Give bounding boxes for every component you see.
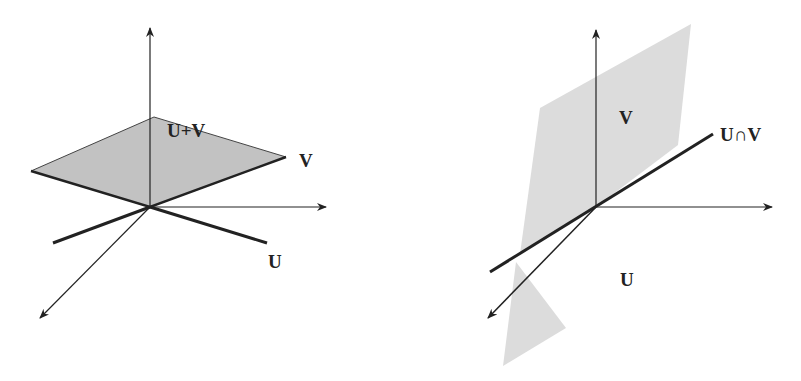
v-plane-lower <box>503 262 566 366</box>
u-line-left <box>53 207 150 243</box>
right-diagram: V U∩V U <box>488 24 772 366</box>
left-diagram: U+V V U <box>31 28 326 318</box>
label-u: U <box>620 269 634 290</box>
label-v: V <box>299 150 313 171</box>
u-line-right <box>150 207 267 243</box>
diagram-canvas: U+V V U V U∩V U <box>0 0 801 381</box>
sum-plane <box>31 117 286 207</box>
label-u-intersect-v: U∩V <box>720 124 761 145</box>
label-u: U <box>268 251 282 272</box>
y-axis <box>40 207 150 318</box>
label-v: V <box>619 107 633 128</box>
v-plane-upper <box>520 24 691 254</box>
label-u-plus-v: U+V <box>167 120 206 141</box>
